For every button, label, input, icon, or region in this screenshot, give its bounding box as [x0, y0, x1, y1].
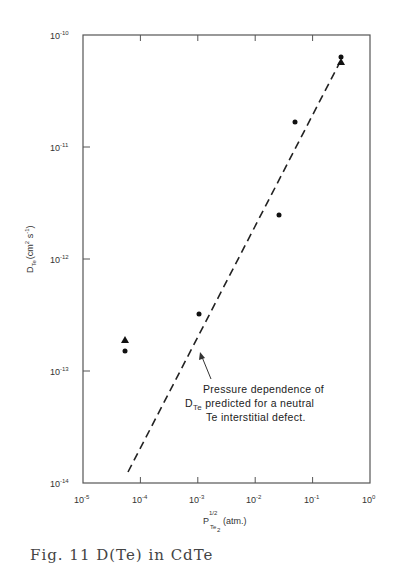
- data-point-circle: [277, 213, 282, 218]
- svg-text:2: 2: [217, 527, 221, 533]
- data-point-circle: [293, 120, 298, 125]
- svg-text:10-14: 10-14: [50, 478, 69, 489]
- svg-text:10-10: 10-10: [50, 30, 69, 41]
- svg-text:10-5: 10-5: [74, 494, 90, 505]
- data-point-circle: [123, 349, 128, 354]
- annotation-arrow: [199, 352, 211, 379]
- x-tick-labels: 10-5 10-4 10-3 10-2 10-1 100: [74, 494, 376, 505]
- svg-text:Pressure dependence of: Pressure dependence of: [203, 383, 324, 395]
- figure-caption: Fig. 11 D(Te) in CdTe: [30, 546, 213, 564]
- svg-text:10-4: 10-4: [132, 494, 148, 505]
- svg-text:P: P: [203, 516, 209, 526]
- data-point-triangle: [337, 58, 345, 65]
- svg-text:10-13: 10-13: [50, 366, 69, 377]
- svg-text:DTe(cm2 s-1): DTe(cm2 s-1): [24, 225, 37, 273]
- svg-text:10-1: 10-1: [304, 494, 320, 505]
- svg-text:Te: Te: [210, 524, 217, 530]
- triangle-markers: [121, 58, 345, 343]
- y-ticks: [83, 147, 90, 371]
- svg-text:(atm.): (atm.): [223, 516, 247, 526]
- svg-text:10-11: 10-11: [50, 142, 69, 153]
- svg-text:10-3: 10-3: [189, 494, 205, 505]
- y-tick-labels: 10-10 10-11 10-12 10-13 10-14: [50, 30, 69, 489]
- y-axis-label: DTe(cm2 s-1): [24, 225, 37, 273]
- svg-text:100: 100: [362, 494, 376, 505]
- annotation-text: Pressure dependence of DTe predicted for…: [185, 383, 324, 423]
- data-point-circle: [197, 312, 202, 317]
- data-point-triangle: [121, 336, 129, 343]
- svg-text:DTe predicted for a neutral: DTe predicted for a neutral: [185, 397, 314, 412]
- x-axis-label: P 1/2 Te 2 (atm.): [203, 510, 247, 533]
- svg-text:Te interstitial defect.: Te interstitial defect.: [206, 411, 306, 423]
- svg-text:1/2: 1/2: [209, 510, 218, 516]
- svg-text:10-2: 10-2: [246, 494, 262, 505]
- circle-markers: [123, 55, 344, 354]
- svg-text:10-12: 10-12: [50, 254, 69, 265]
